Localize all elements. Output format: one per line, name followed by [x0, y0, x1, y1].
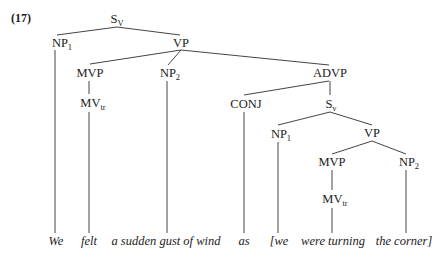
node-vp: VP: [173, 37, 189, 50]
node-subscript: tr: [342, 198, 347, 208]
edge-advp-conj: [244, 81, 329, 95]
node-np1: NP1: [52, 37, 72, 50]
node-label: ADVP: [313, 66, 347, 80]
node-label: CONJ: [230, 97, 261, 111]
edge-vp-advp: [181, 50, 329, 65]
word-we: We: [49, 235, 64, 248]
node-label: MVP: [318, 155, 345, 169]
node-subscript: 1: [68, 42, 72, 52]
node-conj: CONJ: [230, 98, 261, 111]
node-mvp: MVP: [76, 67, 103, 80]
edge-vp-np2-inner: [372, 141, 406, 154]
node-label: VP: [173, 36, 189, 50]
node-s-root: SV: [110, 13, 123, 26]
node-label: S: [325, 97, 332, 111]
edge-sv-vp: [117, 27, 180, 35]
word-felt: felt: [81, 235, 97, 248]
node-mvp-inner: MVP: [318, 156, 345, 169]
word-a-sudden-gust-of-wind: a sudden gust of wind: [111, 235, 220, 248]
node-label: S: [110, 12, 117, 26]
node-subscript: 1: [287, 133, 291, 143]
node-mv-tr: MVtr: [80, 97, 105, 110]
word-the-corner: the corner]: [376, 235, 433, 248]
node-vp-inner: VP: [364, 127, 380, 140]
edge-sv-np1: [57, 27, 117, 35]
node-label: NP: [271, 127, 287, 141]
node-label: VP: [364, 126, 380, 140]
node-mv-tr-inner: MVtr: [322, 193, 347, 206]
node-subscript: v: [332, 103, 336, 113]
node-np2-inner: NP2: [399, 156, 419, 169]
node-np2: NP2: [160, 67, 180, 80]
node-subscript: 2: [176, 72, 180, 82]
edge-sv-vp-inner: [330, 112, 372, 125]
node-label: NP: [399, 155, 415, 169]
node-s-inner: Sv: [325, 98, 336, 111]
node-label: NP: [52, 36, 68, 50]
node-subscript: tr: [100, 102, 105, 112]
edge-vp-mvp-inner: [332, 141, 372, 154]
node-subscript: V: [117, 18, 123, 28]
node-advp: ADVP: [313, 67, 347, 80]
node-label: MV: [80, 96, 100, 110]
node-label: MV: [322, 192, 342, 206]
node-label: NP: [160, 66, 176, 80]
node-subscript: 2: [415, 161, 419, 171]
edge-vp-np2: [168, 50, 181, 65]
node-label: MVP: [76, 66, 103, 80]
word-as: as: [238, 235, 249, 248]
node-np1-inner: NP1: [271, 128, 291, 141]
word-were-turning: were turning: [301, 235, 365, 248]
edge-vp-mvp: [90, 50, 181, 64]
edge-sv-np1-inner: [278, 112, 330, 125]
word-we-inner: [we: [270, 235, 289, 248]
example-number: (17): [11, 11, 31, 26]
